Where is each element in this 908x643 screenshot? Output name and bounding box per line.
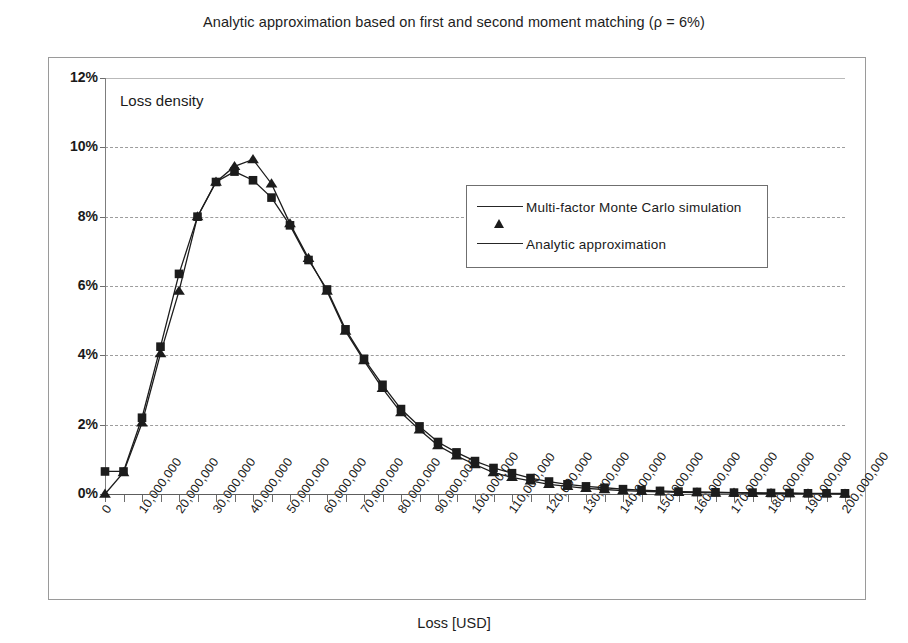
x-tick-mark [753, 495, 754, 502]
x-tick-mark [420, 495, 421, 502]
x-tick-mark [605, 495, 606, 502]
x-tick-mark [549, 495, 550, 502]
x-tick-mark [845, 495, 846, 502]
x-tick-mark [216, 495, 217, 502]
x-tick-mark [105, 495, 106, 502]
x-tick-mark [327, 495, 328, 502]
chart-legend: Multi-factor Monte Carlo simulation Anal… [466, 185, 768, 268]
y-tick-label: 10% [58, 138, 98, 154]
x-tick-mark [512, 495, 513, 502]
y-tick-label: 0% [58, 485, 98, 501]
x-tick-mark [734, 495, 735, 502]
y-tick-label: 12% [58, 69, 98, 85]
gridline [105, 355, 845, 356]
x-tick-mark [142, 495, 143, 502]
x-tick-mark [623, 495, 624, 502]
x-tick-mark [346, 495, 347, 502]
x-tick-mark [383, 495, 384, 502]
x-tick-mark [235, 495, 236, 502]
x-tick-mark [401, 495, 402, 502]
y-tick-label: 4% [58, 346, 98, 362]
legend-label-monte-carlo: Multi-factor Monte Carlo simulation [526, 200, 742, 215]
legend-item-monte-carlo: Multi-factor Monte Carlo simulation [477, 197, 742, 217]
x-tick-mark [697, 495, 698, 502]
legend-item-analytic: Analytic approximation [477, 234, 666, 254]
y-tick-label: 2% [58, 416, 98, 432]
x-tick-mark [290, 495, 291, 502]
y-axis-line [105, 78, 106, 495]
x-tick-mark [438, 495, 439, 502]
x-tick-mark [679, 495, 680, 502]
x-tick-mark [790, 495, 791, 502]
x-tick-mark [309, 495, 310, 502]
x-tick-mark [827, 495, 828, 502]
figure-frame [48, 57, 866, 600]
x-tick-mark [364, 495, 365, 502]
x-tick-mark [568, 495, 569, 502]
x-tick-mark [642, 495, 643, 502]
loss-density-annotation: Loss density [120, 92, 203, 109]
gridline [105, 147, 845, 148]
y-tick-label: 8% [58, 208, 98, 224]
gridline [105, 286, 845, 287]
x-tick-mark [494, 495, 495, 502]
x-tick-mark [179, 495, 180, 502]
x-axis-line [105, 494, 846, 495]
chart-title: Analytic approximation based on first an… [0, 14, 908, 30]
x-tick-mark [161, 495, 162, 502]
x-tick-mark [771, 495, 772, 502]
x-tick-mark [475, 495, 476, 502]
y-tick-label: 6% [58, 277, 98, 293]
x-tick-mark [660, 495, 661, 502]
x-axis-title: Loss [USD] [0, 615, 908, 631]
x-tick-mark [198, 495, 199, 502]
legend-marker-triangle-icon [477, 200, 523, 214]
legend-marker-square-icon [477, 237, 523, 251]
x-tick-mark [272, 495, 273, 502]
x-tick-mark [531, 495, 532, 502]
gridline [105, 78, 845, 79]
x-tick-mark [808, 495, 809, 502]
x-tick-mark [253, 495, 254, 502]
x-tick-mark [586, 495, 587, 502]
x-tick-mark [124, 495, 125, 502]
x-tick-mark [457, 495, 458, 502]
x-tick-mark [716, 495, 717, 502]
gridline [105, 425, 845, 426]
legend-label-analytic: Analytic approximation [526, 237, 666, 252]
